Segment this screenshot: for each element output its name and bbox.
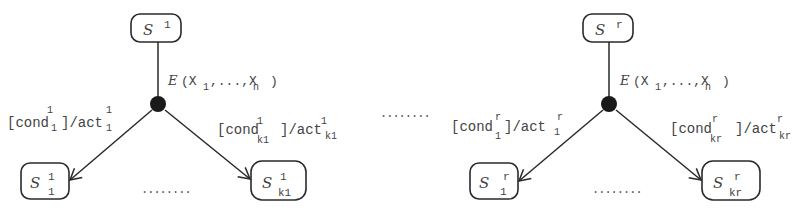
more-targets-ellipsis: ........ — [141, 183, 191, 197]
svg-text:r: r — [557, 112, 563, 123]
svg-text:]/act: ]/act — [735, 121, 777, 137]
diagram-canvas: S 1 E (X 1 ,...,X n ) [cond 1 1 ]/act 1 … — [0, 0, 801, 217]
svg-text:[cond: [cond — [7, 115, 49, 131]
svg-text:1: 1 — [495, 131, 501, 142]
svg-text:k1: k1 — [257, 135, 269, 146]
state-s1-k1[interactable]: S 1 k1 — [251, 161, 306, 200]
state-sr-1[interactable]: S r 1 — [470, 163, 518, 199]
guard-label-right: [cond 1 k1 ]/act 1 k1 — [217, 116, 337, 146]
svg-text:1: 1 — [321, 116, 327, 127]
svg-text:]/act: ]/act — [61, 115, 103, 131]
svg-text:r: r — [616, 19, 623, 31]
svg-text:r: r — [734, 171, 741, 183]
svg-text:]/act: ]/act — [280, 122, 322, 138]
svg-text:k1: k1 — [325, 131, 337, 142]
group-separator-ellipsis: ........ — [380, 107, 430, 121]
svg-text:n: n — [253, 82, 259, 93]
group-r: S r E (X 1 ,...,X n ) [cond r 1 ]/act r … — [451, 14, 791, 200]
svg-text:1: 1 — [280, 171, 287, 183]
svg-text:E: E — [619, 73, 630, 88]
svg-text:1: 1 — [500, 186, 507, 198]
svg-text:1: 1 — [106, 105, 112, 116]
svg-text:1: 1 — [47, 105, 53, 116]
more-targets-ellipsis: ........ — [592, 183, 642, 197]
event-label: E (X 1 ,...,X n ) — [167, 73, 278, 93]
svg-text:r: r — [777, 114, 783, 125]
choice-junction — [150, 96, 166, 112]
choice-junction — [601, 96, 617, 112]
svg-text:kr: kr — [729, 187, 742, 199]
svg-text:]/act: ]/act — [504, 119, 546, 135]
group-1: S 1 E (X 1 ,...,X n ) [cond 1 1 ]/act 1 … — [7, 14, 337, 200]
svg-text:n: n — [705, 82, 711, 93]
svg-text:kr: kr — [779, 131, 791, 142]
svg-text:[cond: [cond — [217, 122, 259, 138]
svg-text:S: S — [479, 174, 489, 192]
svg-text:): ) — [722, 74, 730, 89]
svg-text:1: 1 — [164, 19, 171, 31]
svg-text:1: 1 — [106, 123, 112, 134]
state-sr-kr[interactable]: S r kr — [702, 161, 760, 200]
svg-text:1: 1 — [554, 127, 560, 138]
svg-text:(X: (X — [633, 74, 649, 89]
svg-text:S: S — [595, 21, 605, 39]
svg-text:1: 1 — [51, 123, 57, 134]
svg-text:1: 1 — [655, 82, 661, 93]
state-s1[interactable]: S 1 — [131, 14, 181, 42]
guard-label-left: [cond 1 1 ]/act 1 1 — [7, 105, 112, 134]
svg-text:S: S — [262, 174, 272, 192]
svg-text:r: r — [503, 171, 510, 183]
guard-label-right: [cond r kr ]/act r kr — [670, 114, 791, 145]
svg-text:S: S — [713, 174, 723, 192]
svg-text:(X: (X — [181, 74, 197, 89]
svg-text:[cond: [cond — [451, 119, 493, 135]
svg-text:,...,X: ,...,X — [210, 74, 257, 89]
svg-text:1: 1 — [203, 82, 209, 93]
svg-text:,...,X: ,...,X — [662, 74, 709, 89]
svg-text:S: S — [30, 174, 40, 192]
transition-arrow-right[interactable] — [165, 110, 250, 179]
svg-text:1: 1 — [48, 171, 55, 183]
state-sr[interactable]: S r — [583, 14, 633, 42]
svg-text:S: S — [143, 21, 153, 39]
svg-text:r: r — [495, 112, 501, 123]
svg-text:kr: kr — [710, 134, 722, 145]
svg-text:): ) — [270, 74, 278, 89]
guard-label-left: [cond r 1 ]/act r 1 — [451, 112, 563, 142]
svg-text:r: r — [712, 114, 718, 125]
svg-text:E: E — [167, 73, 178, 88]
svg-text:1: 1 — [48, 186, 55, 198]
svg-text:k1: k1 — [278, 187, 292, 199]
state-s1-1[interactable]: S 1 1 — [21, 163, 69, 199]
event-label: E (X 1 ,...,X n ) — [619, 73, 730, 93]
svg-text:1: 1 — [257, 116, 263, 127]
svg-text:[cond: [cond — [670, 121, 712, 137]
